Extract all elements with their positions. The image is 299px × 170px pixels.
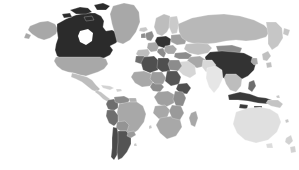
world-map-canvas <box>0 0 299 170</box>
region-tasmania <box>266 143 273 148</box>
world-map-figure <box>0 0 299 170</box>
